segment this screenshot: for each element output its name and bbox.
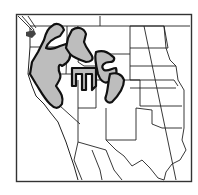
range-dark-patch-puget (26, 30, 36, 38)
range-region-utah-fingers (72, 68, 96, 90)
range-map (0, 0, 198, 195)
range-region-colorado (105, 73, 124, 102)
species-range (26, 24, 124, 108)
